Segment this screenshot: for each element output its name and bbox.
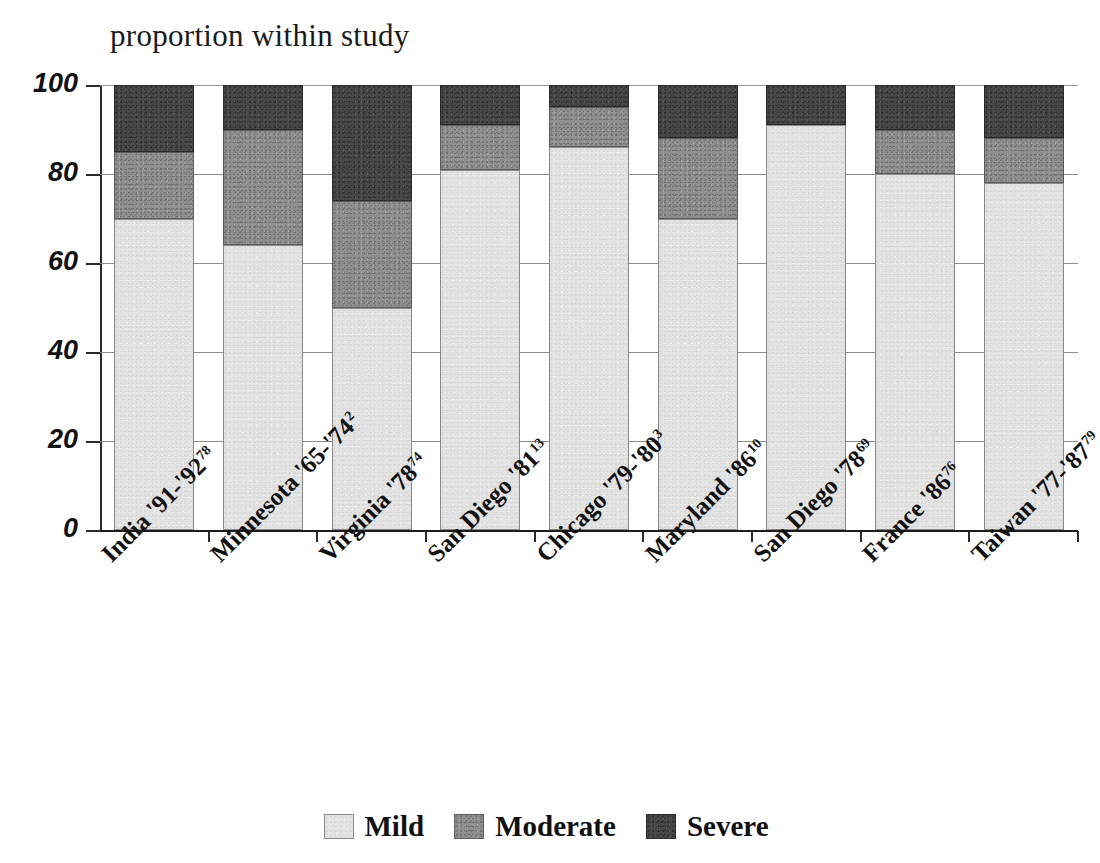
- bar-segment-severe[interactable]: [332, 85, 412, 201]
- x-axis-tick: [316, 531, 318, 542]
- bar-segment-moderate[interactable]: [114, 152, 194, 219]
- bar-segment-severe[interactable]: [984, 85, 1064, 138]
- legend: MildModerateSevere: [0, 812, 1092, 841]
- bar-segment-severe[interactable]: [658, 85, 738, 138]
- bar-segment-moderate[interactable]: [332, 201, 412, 308]
- legend-item-severe[interactable]: Severe: [646, 812, 769, 841]
- x-axis-tick: [642, 531, 644, 542]
- bar-segment-moderate[interactable]: [549, 107, 629, 147]
- x-axis-tick: [968, 531, 970, 542]
- bar-segment-severe[interactable]: [766, 85, 846, 125]
- y-axis-tick: [86, 352, 100, 354]
- page-title: proportion within study: [110, 18, 410, 54]
- x-axis-tick: [1077, 531, 1079, 542]
- bar-segment-moderate[interactable]: [875, 130, 955, 175]
- y-axis-tick: [86, 441, 100, 443]
- bar-segment-moderate[interactable]: [223, 130, 303, 246]
- legend-label: Mild: [365, 812, 425, 841]
- bar-segment-moderate[interactable]: [984, 138, 1064, 183]
- x-axis-tick: [534, 531, 536, 542]
- bar-segment-moderate[interactable]: [440, 125, 520, 170]
- y-axis-tick: [86, 263, 100, 265]
- x-axis-tick: [208, 531, 210, 542]
- legend-label: Severe: [687, 812, 769, 841]
- y-axis-tick: [86, 85, 100, 87]
- y-axis-tick: [86, 530, 100, 532]
- plot-area: [100, 85, 1078, 530]
- legend-swatch-moderate: [454, 814, 484, 839]
- bar-segment-severe[interactable]: [114, 85, 194, 152]
- x-axis-tick: [860, 531, 862, 542]
- x-axis-tick: [751, 531, 753, 542]
- legend-item-moderate[interactable]: Moderate: [454, 812, 616, 841]
- legend-item-mild[interactable]: Mild: [324, 812, 425, 841]
- bar-segment-severe[interactable]: [223, 85, 303, 130]
- y-axis-label: 100: [0, 68, 78, 99]
- y-axis-label: 20: [0, 424, 78, 455]
- bar-segment-severe[interactable]: [549, 85, 629, 107]
- y-axis-label: 0: [0, 513, 78, 544]
- legend-label: Moderate: [495, 812, 616, 841]
- bar-segment-moderate[interactable]: [658, 138, 738, 218]
- bar-segment-severe[interactable]: [875, 85, 955, 130]
- y-axis-label: 80: [0, 157, 78, 188]
- y-axis-label: 40: [0, 335, 78, 366]
- x-axis-tick: [425, 531, 427, 542]
- y-axis-label: 60: [0, 246, 78, 277]
- legend-swatch-mild: [324, 814, 354, 839]
- y-axis-tick: [86, 174, 100, 176]
- bar-segment-severe[interactable]: [440, 85, 520, 125]
- legend-swatch-severe: [646, 814, 676, 839]
